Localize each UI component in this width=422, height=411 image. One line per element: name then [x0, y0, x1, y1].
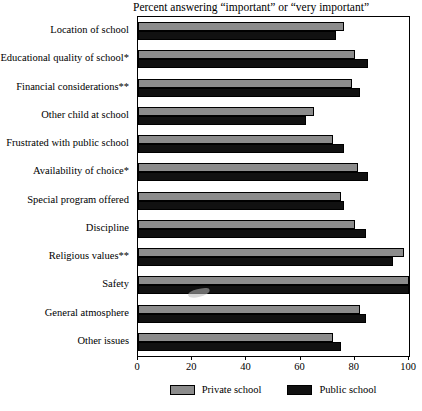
bar-private: [138, 107, 314, 116]
legend-item-private[interactable]: Private school: [170, 384, 262, 396]
bar-private: [138, 333, 333, 342]
legend-label: Public school: [319, 384, 376, 396]
bar-public: [138, 59, 368, 68]
bar-private: [138, 305, 360, 314]
bar-public: [138, 229, 366, 238]
bar-group: [138, 79, 409, 97]
bar-private: [138, 163, 358, 172]
bar-public: [138, 201, 344, 210]
bar-private: [138, 276, 409, 285]
bar-private: [138, 135, 333, 144]
bar-private: [138, 192, 341, 201]
category-label: Availability of choice*: [0, 165, 129, 177]
x-tick-label: 40: [230, 361, 260, 373]
x-axis: 020406080100: [137, 356, 409, 380]
x-tick-mark: [408, 356, 409, 360]
legend-swatch-private-icon: [170, 385, 195, 395]
bar-group: [138, 163, 409, 181]
bar-private: [138, 79, 352, 88]
plot-area: [137, 16, 410, 357]
bar-public: [138, 88, 360, 97]
bar-group: [138, 107, 409, 125]
x-tick-mark: [137, 356, 138, 360]
x-tick-label: 100: [393, 361, 422, 373]
category-label: Financial considerations**: [0, 81, 129, 93]
category-label: General atmosphere: [0, 307, 129, 319]
bar-public: [138, 342, 341, 351]
bar-public: [138, 116, 306, 125]
legend-item-public[interactable]: Public school: [287, 384, 376, 396]
bar-public: [138, 172, 368, 181]
x-tick-mark: [354, 356, 355, 360]
category-label: Discipline: [0, 222, 129, 234]
x-tick-label: 60: [285, 361, 315, 373]
bar-private: [138, 220, 355, 229]
bar-group: [138, 22, 409, 40]
chart-title: Percent answering “important” or “very i…: [131, 0, 371, 14]
bar-group: [138, 135, 409, 153]
bar-group: [138, 333, 409, 351]
bar-group: [138, 305, 409, 323]
bar-private: [138, 248, 404, 257]
bars-layer: [138, 17, 409, 356]
chart-figure: Percent answering “important” or “very i…: [0, 0, 422, 411]
bar-public: [138, 285, 409, 294]
legend-label: Private school: [202, 384, 262, 396]
category-label: Location of school: [0, 24, 129, 36]
category-axis-labels: Location of schoolEducational quality of…: [0, 16, 133, 355]
category-label: Other child at school: [0, 109, 129, 121]
category-label: Frustrated with public school: [0, 137, 129, 149]
bar-public: [138, 314, 366, 323]
category-label: Educational quality of school*: [0, 52, 129, 64]
bar-public: [138, 31, 336, 40]
x-tick-label: 0: [122, 361, 152, 373]
x-tick-label: 80: [339, 361, 369, 373]
bar-group: [138, 248, 409, 266]
category-label: Safety: [0, 278, 129, 290]
chart-legend: Private schoolPublic school: [137, 381, 409, 399]
bar-group: [138, 276, 409, 294]
x-tick-mark: [245, 356, 246, 360]
bar-group: [138, 220, 409, 238]
bar-public: [138, 144, 344, 153]
bar-group: [138, 50, 409, 68]
legend-swatch-public-icon: [287, 385, 312, 395]
x-tick-mark: [191, 356, 192, 360]
x-tick-label: 20: [176, 361, 206, 373]
bar-private: [138, 50, 355, 59]
bar-group: [138, 192, 409, 210]
x-tick-mark: [300, 356, 301, 360]
bar-public: [138, 257, 393, 266]
category-label: Special program offered: [0, 194, 129, 206]
category-label: Other issues: [0, 335, 129, 347]
bar-private: [138, 22, 344, 31]
category-label: Religious values**: [0, 250, 129, 262]
